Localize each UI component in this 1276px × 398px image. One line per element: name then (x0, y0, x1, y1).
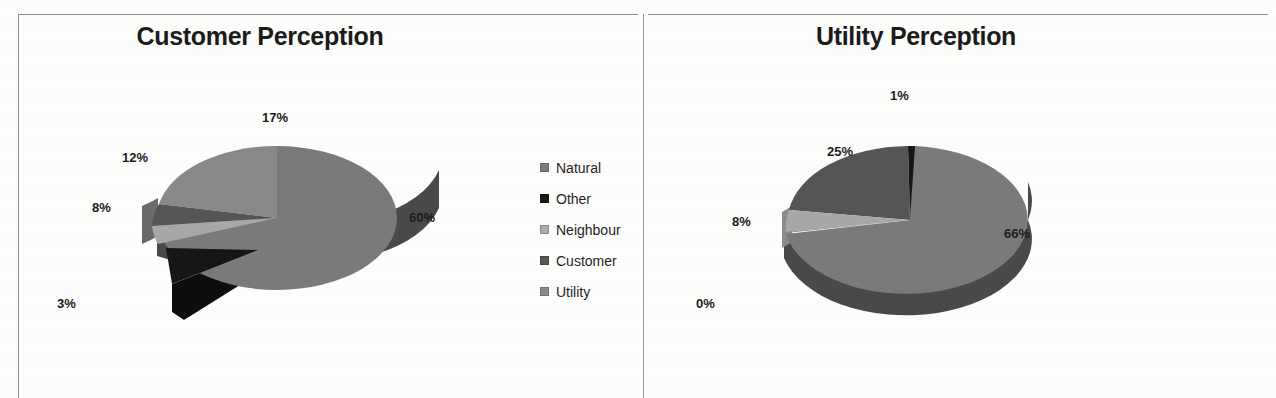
legend-item-other[interactable]: Other (540, 183, 621, 214)
legend-swatch-neighbour-icon (540, 225, 549, 234)
panel-left-rule (18, 14, 19, 398)
pie-chart-customer-perception: 17% 12% 8% 3% 60% (62, 88, 482, 388)
scanned-page: Customer Perception (0, 0, 1276, 398)
pie-svg-utility (694, 92, 1114, 392)
value-label-other-right: 1% (890, 88, 909, 103)
value-label-utility-right: 0% (696, 296, 715, 311)
pie-svg-customer (62, 88, 482, 388)
chart-panel-customer-perception: Customer Perception (0, 0, 640, 398)
value-label-natural-right: 66% (1004, 226, 1030, 241)
legend-swatch-other-icon (540, 194, 549, 203)
page-title-utility-perception: Utility Perception (602, 22, 1230, 51)
legend-label-utility: Utility (556, 284, 590, 300)
value-label-neighbour-right: 8% (732, 214, 751, 229)
legend-label-other: Other (556, 191, 591, 207)
legend-item-utility[interactable]: Utility (540, 276, 621, 307)
legend-swatch-utility-icon (540, 287, 549, 296)
legend-label-neighbour: Neighbour (556, 222, 621, 238)
panel-top-rule (18, 14, 638, 15)
pie-chart-utility-perception: 1% 25% 8% 0% 66% (694, 92, 1114, 392)
legend-customer-perception: Natural Other Neighbour Customer Utility (540, 152, 621, 307)
page-title-customer-perception: Customer Perception (0, 22, 580, 51)
value-label-customer-right: 25% (827, 144, 853, 159)
legend-swatch-natural-icon (540, 163, 549, 172)
legend-item-neighbour[interactable]: Neighbour (540, 214, 621, 245)
chart-panel-utility-perception: Utility Perception (648, 0, 1276, 398)
panel-divider (643, 14, 644, 398)
legend-item-customer[interactable]: Customer (540, 245, 621, 276)
value-label-customer: 12% (122, 150, 148, 165)
panel-top-rule-right (648, 14, 1268, 15)
value-label-natural: 60% (409, 210, 435, 225)
legend-swatch-customer-icon (540, 256, 549, 265)
value-label-other: 3% (57, 296, 76, 311)
legend-label-customer: Customer (556, 253, 617, 269)
value-label-utility: 17% (262, 110, 288, 125)
legend-item-natural[interactable]: Natural (540, 152, 621, 183)
value-label-neighbour: 8% (92, 200, 111, 215)
legend-label-natural: Natural (556, 160, 601, 176)
